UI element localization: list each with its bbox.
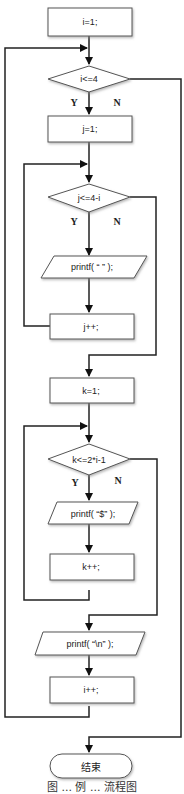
label-cond-j-yes: Y bbox=[70, 216, 77, 227]
label-print-newline: printf( “\n” ); bbox=[66, 639, 113, 649]
label-init-j: j=1; bbox=[83, 124, 98, 134]
label-print-space: printf( “ ” ); bbox=[71, 262, 113, 272]
label-cond-j: j<=4-i bbox=[78, 193, 101, 203]
label-cond-i-yes: Y bbox=[70, 97, 77, 108]
edge-cond-k-no bbox=[89, 459, 157, 630]
label-cond-k-no: N bbox=[114, 475, 121, 486]
label-inc-j: j++; bbox=[83, 322, 98, 332]
label-inc-k: k++; bbox=[82, 562, 100, 572]
label-cond-i: i<=4 bbox=[80, 74, 98, 84]
edge-cond-j-no bbox=[89, 197, 156, 376]
label-cond-j-no: N bbox=[113, 216, 120, 227]
label-cond-k-yes: Y bbox=[71, 477, 78, 488]
label-end: 结束 bbox=[81, 759, 101, 774]
label-inc-i: i++; bbox=[83, 685, 98, 695]
label-cond-k: k<=2*i-1 bbox=[72, 455, 106, 465]
figure-caption: 图 ... 例 ... 流程图 bbox=[47, 778, 137, 794]
label-cond-i-no: N bbox=[113, 97, 120, 108]
label-print-dollar: printf( “$” ); bbox=[71, 509, 116, 519]
label-init-i: i=1; bbox=[83, 17, 98, 27]
label-init-k: k=1; bbox=[82, 386, 99, 396]
